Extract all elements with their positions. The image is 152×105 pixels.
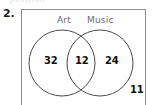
region-value-neither: 11 [130,84,144,95]
region-value-art-only: 32 [44,55,58,66]
region-value-music-only: 24 [105,55,119,66]
set-label-music: Music [87,15,114,25]
venn-diagram-screenshot: position 2. Art Music 32 12 24 11 [0,0,152,105]
region-value-both: 12 [75,55,89,66]
set-label-art: Art [57,15,71,25]
